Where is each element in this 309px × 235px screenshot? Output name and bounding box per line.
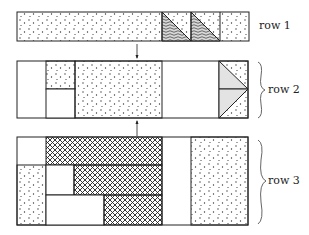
arrow-up-icon [136,120,139,136]
row-2-strip [17,61,248,118]
row-1-label: row 1 [259,19,291,32]
row-3-strip [17,137,248,225]
row-1-strip [17,12,249,41]
row-packing-diagram [0,0,309,235]
arrow-down-icon [136,44,139,59]
brace-row-3 [258,140,266,224]
brace-row-2 [258,62,265,118]
row-3-label: row 3 [268,174,300,187]
row-2-label: row 2 [268,83,300,96]
